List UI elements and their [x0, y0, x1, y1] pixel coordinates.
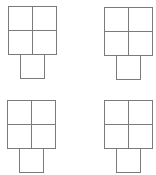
- cell-top-right: [128, 100, 153, 125]
- cell-bottom-right: [32, 30, 57, 55]
- cell-stem: [20, 54, 45, 79]
- cell-stem: [19, 148, 44, 173]
- cell-bottom-left: [104, 124, 129, 149]
- cell-top-right: [32, 6, 57, 31]
- cell-top-left: [104, 7, 129, 32]
- cell-top-left: [8, 6, 33, 31]
- cell-top-right: [31, 100, 56, 125]
- cell-stem: [116, 148, 141, 173]
- cell-top-right: [128, 7, 153, 32]
- cell-bottom-right: [31, 124, 56, 149]
- cell-bottom-left: [104, 31, 129, 56]
- cell-stem: [116, 55, 141, 80]
- cell-bottom-left: [8, 30, 33, 55]
- cell-bottom-left: [7, 124, 32, 149]
- cell-top-left: [7, 100, 32, 125]
- cell-bottom-right: [128, 31, 153, 56]
- cell-bottom-right: [128, 124, 153, 149]
- cell-top-left: [104, 100, 129, 125]
